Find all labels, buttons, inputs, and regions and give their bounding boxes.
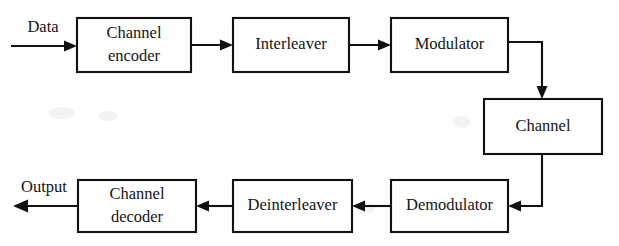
block-modulator: Modulator: [391, 18, 508, 72]
connector-modulator-to-channel: [508, 42, 548, 99]
block-channel-encoder: Channel encoder: [77, 18, 191, 72]
output-label: Output: [21, 177, 67, 196]
connector-channel-to-demodulator: [508, 154, 542, 212]
connector-data-to-channel-encoder: [11, 41, 77, 52]
block-label-interleaver: Interleaver: [255, 34, 327, 53]
block-label-channel-encoder-line2: encoder: [108, 46, 161, 65]
input-label-data: Data: [27, 17, 59, 36]
diagram-canvas: Channel encoder Interleaver Modulator Ch…: [0, 0, 619, 246]
block-label-channel-encoder-line1: Channel: [107, 23, 162, 42]
block-label-deinterleaver: Deinterleaver: [248, 195, 338, 214]
connector-deinterleaver-to-channel-decoder: [196, 201, 233, 212]
block-label-demodulator: Demodulator: [406, 195, 494, 214]
block-demodulator: Demodulator: [391, 180, 508, 232]
block-label-channel-decoder-line1: Channel: [110, 184, 165, 203]
block-label-modulator: Modulator: [415, 34, 485, 53]
block-label-channel: Channel: [516, 116, 571, 135]
connector-channel-decoder-to-output: [13, 200, 78, 213]
block-diagram-figure: Channel encoder Interleaver Modulator Ch…: [0, 0, 619, 246]
connector-channel-encoder-to-interleaver: [191, 40, 233, 51]
block-label-channel-decoder-line2: decoder: [111, 207, 164, 226]
block-deinterleaver: Deinterleaver: [233, 180, 352, 232]
connector-interleaver-to-modulator: [349, 40, 391, 51]
block-channel-decoder: Channel decoder: [78, 180, 196, 232]
block-channel: Channel: [484, 99, 602, 154]
block-interleaver: Interleaver: [233, 18, 349, 72]
